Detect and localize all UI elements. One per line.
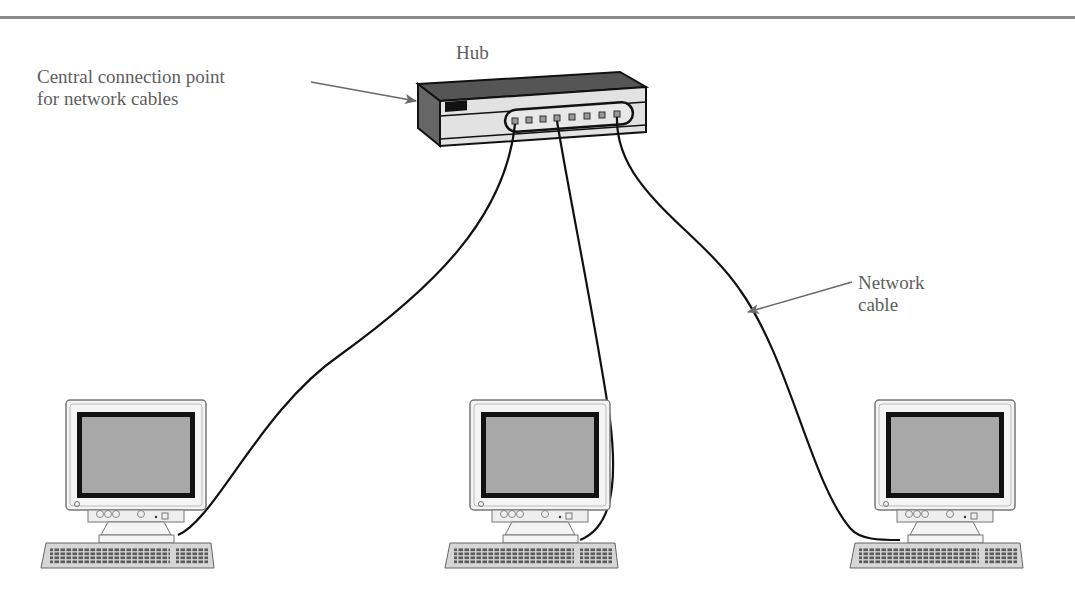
hub-device bbox=[418, 72, 646, 146]
cable-label-arrow bbox=[748, 282, 852, 312]
cable-left bbox=[178, 124, 515, 535]
central-label-arrow bbox=[311, 82, 416, 101]
cable-right bbox=[617, 117, 900, 540]
computer-center bbox=[445, 400, 618, 568]
computer-right bbox=[850, 400, 1023, 568]
computer-left bbox=[41, 400, 214, 568]
